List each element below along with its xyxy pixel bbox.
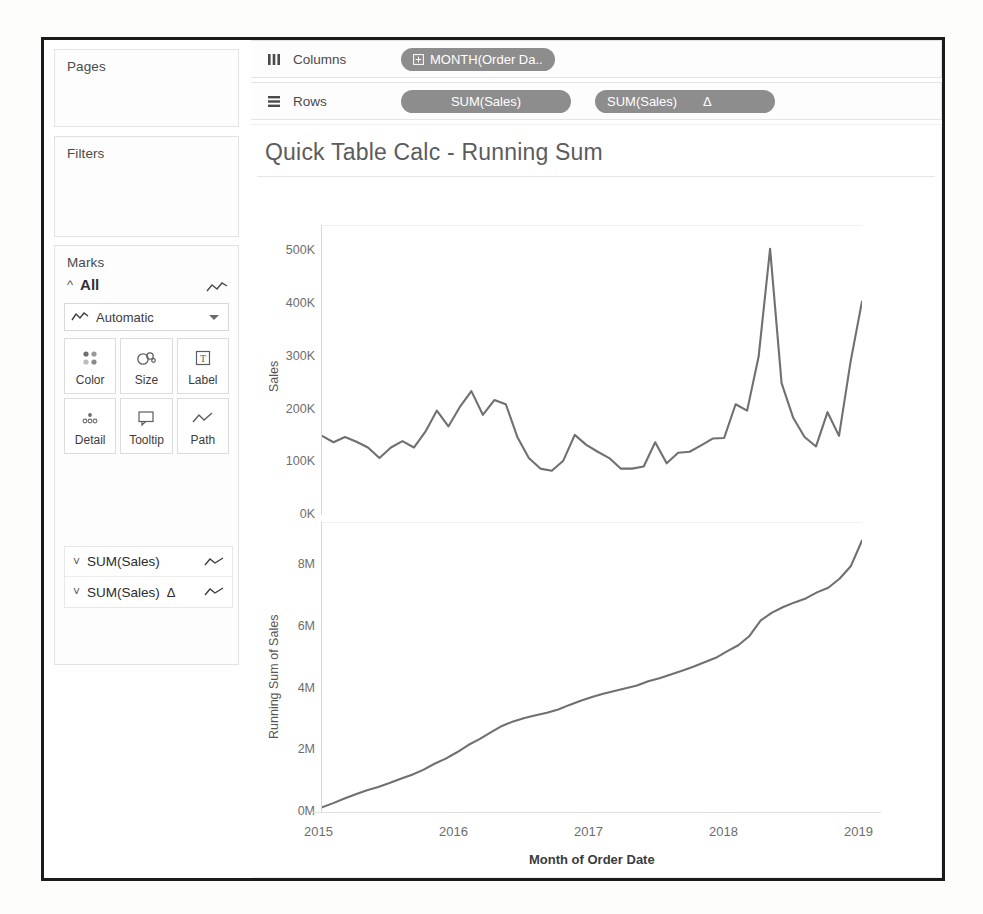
visualization-pane: Quick Table Calc - Running Sum Sales 0K1… bbox=[251, 124, 942, 878]
marks-measure-list: ˅ SUM(Sales) ˅ SUM(Sales) Δ bbox=[64, 546, 233, 608]
delta-icon: Δ bbox=[167, 585, 176, 600]
marks-measure-sum-sales[interactable]: ˅ SUM(Sales) bbox=[65, 547, 232, 577]
line-mark-icon bbox=[204, 553, 224, 571]
left-sidebar: Pages Filters Marks ^ All Automatic bbox=[44, 40, 251, 878]
size-button[interactable]: Size bbox=[120, 338, 172, 394]
detail-button[interactable]: Detail bbox=[64, 398, 116, 454]
columns-icon bbox=[263, 53, 285, 66]
label-button-label: Label bbox=[188, 373, 217, 387]
title-divider bbox=[257, 176, 935, 177]
filters-card[interactable]: Filters bbox=[54, 136, 239, 237]
tooltip-button-label: Tooltip bbox=[129, 433, 164, 447]
bottom-chart-y-tick: 2M bbox=[265, 742, 315, 756]
marks-measure-label: SUM(Sales) bbox=[87, 554, 160, 569]
bottom-chart-y-tick: 8M bbox=[265, 557, 315, 571]
x-axis-tick: 2017 bbox=[574, 824, 603, 839]
top-chart-y-tick: 0K bbox=[265, 507, 315, 521]
chevron-down-icon[interactable]: ˅ bbox=[73, 585, 80, 599]
top-chart-y-tick: 200K bbox=[265, 402, 315, 416]
tooltip-bubble-icon bbox=[136, 405, 156, 431]
detail-button-label: Detail bbox=[75, 433, 106, 447]
page-title: Quick Table Calc - Running Sum bbox=[251, 125, 941, 176]
size-circles-icon bbox=[135, 345, 157, 371]
svg-text:T: T bbox=[200, 353, 206, 364]
top-chart-y-axis-title: Sales bbox=[267, 361, 281, 392]
marks-measure-sum-sales-running[interactable]: ˅ SUM(Sales) Δ bbox=[65, 577, 232, 607]
delta-icon: Δ bbox=[703, 94, 712, 109]
path-line-icon bbox=[192, 405, 214, 431]
line-mark-icon bbox=[204, 583, 224, 601]
top-chart-plot[interactable] bbox=[321, 225, 861, 515]
pill-label: SUM(Sales) bbox=[451, 94, 521, 109]
pages-card-title: Pages bbox=[55, 50, 238, 74]
shelf-container: Columns MONTH(Order Da.. bbox=[251, 40, 942, 120]
top-chart-y-tick: 500K bbox=[265, 243, 315, 257]
mark-type-label: Automatic bbox=[96, 310, 209, 325]
x-axis-tick: 2018 bbox=[709, 824, 738, 839]
x-axis-rule bbox=[311, 812, 881, 813]
bottom-chart-plot[interactable] bbox=[321, 522, 861, 812]
marks-all-label: All bbox=[80, 276, 206, 293]
pill-label: MONTH(Order Da.. bbox=[430, 52, 543, 67]
columns-shelf-label: Columns bbox=[293, 52, 401, 67]
bottom-chart-y-tick: 4M bbox=[265, 681, 315, 695]
bottom-chart-y-axis-title: Running Sum of Sales bbox=[267, 615, 281, 739]
marks-card-title: Marks bbox=[55, 246, 238, 270]
path-button[interactable]: Path bbox=[177, 398, 229, 454]
marks-measure-label: SUM(Sales) bbox=[87, 585, 160, 600]
marks-card[interactable]: Marks ^ All Automatic bbox=[54, 245, 239, 665]
rows-shelf[interactable]: Rows SUM(Sales) SUM(Sales) Δ bbox=[251, 82, 942, 120]
chevron-down-icon[interactable]: ˅ bbox=[73, 555, 80, 569]
label-text-icon: T bbox=[194, 345, 212, 371]
top-chart-y-tick: 400K bbox=[265, 296, 315, 310]
rows-icon bbox=[263, 95, 285, 108]
line-mark-icon bbox=[71, 308, 89, 326]
label-button[interactable]: T Label bbox=[177, 338, 229, 394]
detail-dots-icon bbox=[79, 405, 101, 431]
x-axis-tick: 2016 bbox=[439, 824, 468, 839]
pill-sum-sales[interactable]: SUM(Sales) bbox=[401, 90, 571, 113]
pill-month-order-date[interactable]: MONTH(Order Da.. bbox=[401, 48, 555, 71]
pages-card[interactable]: Pages bbox=[54, 49, 239, 127]
path-button-label: Path bbox=[190, 433, 215, 447]
tableau-window-frame: Pages Filters Marks ^ All Automatic bbox=[41, 37, 945, 881]
mark-type-dropdown[interactable]: Automatic bbox=[64, 303, 229, 331]
color-button-label: Color bbox=[76, 373, 105, 387]
bottom-chart-y-tick: 0M bbox=[265, 804, 315, 818]
x-axis-tick: 2015 bbox=[304, 824, 333, 839]
rows-shelf-label: Rows bbox=[293, 94, 401, 109]
marks-button-grid: Color Size bbox=[64, 338, 229, 454]
marks-all-header[interactable]: ^ All bbox=[55, 270, 238, 295]
chevron-down-icon[interactable] bbox=[209, 315, 219, 320]
columns-shelf[interactable]: Columns MONTH(Order Da.. bbox=[251, 40, 942, 78]
chevron-up-icon[interactable]: ^ bbox=[67, 278, 73, 291]
filters-card-title: Filters bbox=[55, 137, 238, 161]
size-button-label: Size bbox=[135, 373, 158, 387]
x-axis-title: Month of Order Date bbox=[529, 852, 655, 867]
top-chart-y-tick: 300K bbox=[265, 349, 315, 363]
tooltip-button[interactable]: Tooltip bbox=[120, 398, 172, 454]
color-button[interactable]: Color bbox=[64, 338, 116, 394]
pill-label: SUM(Sales) bbox=[607, 94, 677, 109]
x-axis-tick: 2019 bbox=[844, 824, 873, 839]
bottom-chart-y-tick: 6M bbox=[265, 619, 315, 633]
top-chart-y-tick: 100K bbox=[265, 454, 315, 468]
line-mark-icon bbox=[206, 279, 228, 291]
pill-sum-sales-running[interactable]: SUM(Sales) Δ bbox=[595, 90, 775, 113]
plus-box-icon[interactable] bbox=[413, 54, 424, 65]
color-dots-icon bbox=[80, 345, 100, 371]
